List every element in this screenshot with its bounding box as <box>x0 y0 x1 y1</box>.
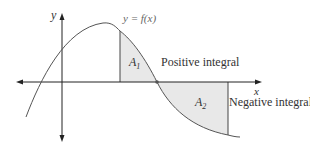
curve-label: y = f(x) <box>123 12 156 24</box>
root-point <box>155 80 159 84</box>
x-axis-left-arrow-icon <box>16 80 23 85</box>
region-a2-label: A2 <box>195 95 206 111</box>
integral-diagram: y y = f(x) x A1 Positive integral A2 Neg… <box>0 0 310 147</box>
region-a2-subscript: 2 <box>202 102 206 111</box>
negative-integral-label: Negative integral <box>229 95 310 110</box>
y-axis-up-arrow-icon <box>60 13 65 20</box>
region-a1-label: A1 <box>129 55 140 71</box>
region-a1-subscript: 1 <box>136 62 140 71</box>
region-a2-shade <box>157 82 228 135</box>
positive-integral-label: Positive integral <box>161 55 239 70</box>
y-axis-label: y <box>51 8 56 23</box>
y-axis-down-arrow-icon <box>60 135 65 142</box>
x-axis-right-arrow-icon <box>255 80 262 85</box>
